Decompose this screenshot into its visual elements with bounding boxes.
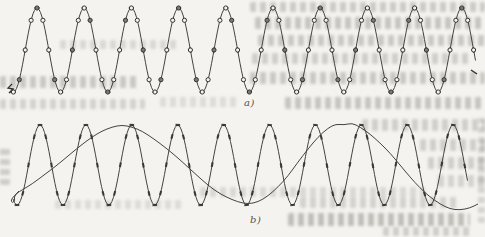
- sample-tick-marker: [396, 162, 397, 167]
- sample-circle-marker: [277, 18, 281, 22]
- sample-tick-marker: [401, 134, 402, 138]
- sample-tick-marker: [97, 163, 98, 168]
- sample-circle-marker: [94, 48, 98, 52]
- sample-tick-marker: [217, 134, 218, 138]
- sample-circle-marker: [306, 48, 310, 52]
- sample-circle-marker: [17, 78, 21, 82]
- sample-tick-marker: [451, 125, 456, 126]
- sample-circle-marker: [100, 78, 104, 82]
- sample-circle-marker: [371, 18, 375, 22]
- sample-tick-marker: [57, 191, 58, 195]
- sample-circle-marker: [236, 48, 240, 52]
- sample-circle-marker: [35, 6, 39, 10]
- sample-tick-marker: [447, 134, 448, 139]
- sample-tick-marker: [235, 163, 236, 168]
- sample-tick-marker: [51, 163, 52, 168]
- sample-circle-marker: [300, 78, 304, 82]
- sample-circle-marker: [135, 18, 139, 22]
- sample-circle-marker: [295, 90, 299, 94]
- sample-circle-marker: [271, 6, 275, 10]
- sample-tick-marker: [120, 163, 121, 168]
- sample-tick-marker: [405, 125, 410, 126]
- sample-circle-marker: [224, 6, 228, 10]
- sample-circle-marker: [265, 18, 269, 22]
- sample-circle-marker: [123, 18, 127, 22]
- sample-tick-marker: [194, 191, 195, 196]
- sample-tick-marker: [22, 191, 23, 195]
- sample-circle-marker: [29, 18, 33, 22]
- sample-circle-marker: [336, 78, 340, 82]
- sample-tick-marker: [304, 162, 305, 167]
- sample-circle-marker: [472, 48, 476, 52]
- sample-circle-marker: [206, 78, 210, 82]
- sample-tick-marker: [137, 135, 138, 139]
- sample-circle-marker: [365, 6, 369, 10]
- sample-circle-marker: [454, 18, 458, 22]
- sample-circle-marker: [177, 6, 181, 10]
- sample-circle-marker: [64, 78, 68, 82]
- sample-circle-marker: [188, 48, 192, 52]
- sample-tick-marker: [332, 192, 333, 197]
- sample-circle-marker: [118, 48, 122, 52]
- sample-circle-marker: [11, 90, 15, 94]
- sample-tick-marker: [103, 191, 104, 195]
- sample-tick-marker: [28, 163, 29, 168]
- sample-tick-marker: [126, 134, 127, 139]
- sample-circle-marker: [53, 78, 57, 82]
- sample-tick-marker: [281, 163, 282, 168]
- sample-tick-marker: [378, 192, 379, 197]
- sample-circle-marker: [383, 78, 387, 82]
- sample-circle-marker: [200, 90, 204, 94]
- sample-circle-marker: [466, 18, 470, 22]
- sample-tick-marker: [298, 191, 299, 196]
- sample-circle-marker: [171, 18, 175, 22]
- sample-tick-marker: [171, 134, 172, 138]
- sample-circle-marker: [436, 90, 440, 94]
- panel-a-sampled-sine: [8, 6, 477, 94]
- sample-circle-marker: [70, 48, 74, 52]
- sample-circle-marker: [182, 18, 186, 22]
- sample-circle-marker: [442, 78, 446, 82]
- sample-tick-marker: [321, 135, 322, 139]
- sample-tick-marker: [382, 205, 387, 206]
- sample-tick-marker: [390, 191, 391, 195]
- sample-tick-marker: [143, 163, 144, 168]
- sample-circle-marker: [259, 48, 263, 52]
- sample-circle-marker: [418, 18, 422, 22]
- sample-tick-marker: [240, 191, 241, 195]
- scanned-figure-page: a) b): [0, 0, 485, 237]
- sample-tick-marker: [74, 163, 75, 168]
- sample-circle-marker: [165, 48, 169, 52]
- sample-circle-marker: [194, 78, 198, 82]
- sample-circle-marker: [324, 18, 328, 22]
- sample-circle-marker: [330, 48, 334, 52]
- sample-circle-marker: [448, 48, 452, 52]
- sample-tick-marker: [114, 191, 115, 196]
- sample-tick-marker: [68, 191, 69, 196]
- sample-tick-marker: [206, 191, 207, 195]
- sample-circle-marker: [47, 48, 51, 52]
- sample-tick-marker: [286, 192, 287, 196]
- sample-tick-marker: [327, 163, 328, 168]
- waveform-figure-svg: [0, 0, 485, 237]
- sample-tick-marker: [149, 191, 150, 196]
- sample-circle-marker: [354, 48, 358, 52]
- sample-circle-marker: [318, 6, 322, 10]
- sample-circle-marker: [23, 48, 27, 52]
- sample-tick-marker: [45, 135, 46, 140]
- sample-circle-marker: [247, 90, 251, 94]
- sample-circle-marker: [389, 90, 393, 94]
- sample-circle-marker: [159, 78, 163, 82]
- sample-circle-marker: [253, 78, 257, 82]
- sample-circle-marker: [153, 90, 157, 94]
- sample-circle-marker: [241, 78, 245, 82]
- sample-circle-marker: [407, 18, 411, 22]
- panel-b-label: b): [250, 214, 261, 225]
- sample-tick-marker: [80, 134, 81, 139]
- sample-tick-marker: [229, 135, 230, 140]
- sample-circle-marker: [430, 78, 434, 82]
- sample-tick-marker: [344, 191, 345, 196]
- sample-tick-marker: [263, 134, 264, 139]
- sample-tick-marker: [436, 190, 437, 194]
- sample-circle-marker: [359, 18, 363, 22]
